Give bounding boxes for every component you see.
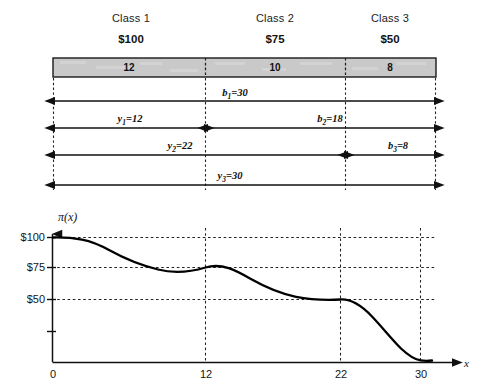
y-tick-label-100: $100 (0, 231, 45, 243)
measure-label-y2-val: =22 (176, 140, 192, 151)
figure-vector-layer (0, 0, 487, 390)
x-tick-label-30: 30 (401, 368, 441, 380)
y-tick-label-50: $50 (0, 293, 45, 305)
measure-label-b2: b2=18 (290, 113, 370, 127)
segment-capacity-1: 12 (104, 62, 154, 73)
class-1-price: $100 (86, 33, 176, 45)
segment-capacity-2: 10 (250, 62, 300, 73)
class-2-price: $75 (230, 33, 320, 45)
measure-label-b3: b3=8 (358, 140, 438, 154)
measure-label-y1: y1=12 (90, 113, 170, 127)
measure-label-b1: b1=30 (195, 87, 275, 101)
y-axis-title: π(x) (58, 210, 77, 225)
class-3-price: $50 (345, 33, 435, 45)
chart-plot-area (47, 228, 452, 363)
measure-label-y3-val: =30 (226, 170, 242, 181)
measure-label-y3: y3=30 (190, 170, 270, 184)
x-tick-label-12: 12 (186, 368, 226, 380)
curve-helper (53, 238, 206, 292)
y-axis-ticks (47, 238, 56, 332)
measure-label-b2-val: =18 (326, 113, 342, 124)
y-tick-label-75: $75 (0, 261, 45, 273)
class-2-title: Class 2 (230, 12, 320, 24)
class-1-title: Class 1 (86, 12, 176, 24)
segment-capacity-3: 8 (365, 62, 415, 73)
measure-label-b3-val: =8 (397, 140, 408, 151)
measure-label-y1-val: =12 (126, 113, 142, 124)
measure-label-b1-val: =30 (231, 87, 247, 98)
measure-label-y2: y2=22 (140, 140, 220, 154)
x-tick-label-22: 22 (321, 368, 361, 380)
x-tick-label-0: 0 (33, 368, 73, 380)
figure-canvas: Class 1 $100 Class 2 $75 Class 3 $50 12 … (0, 0, 487, 390)
x-axis-title: x (464, 357, 469, 369)
class-3-title: Class 3 (345, 12, 435, 24)
